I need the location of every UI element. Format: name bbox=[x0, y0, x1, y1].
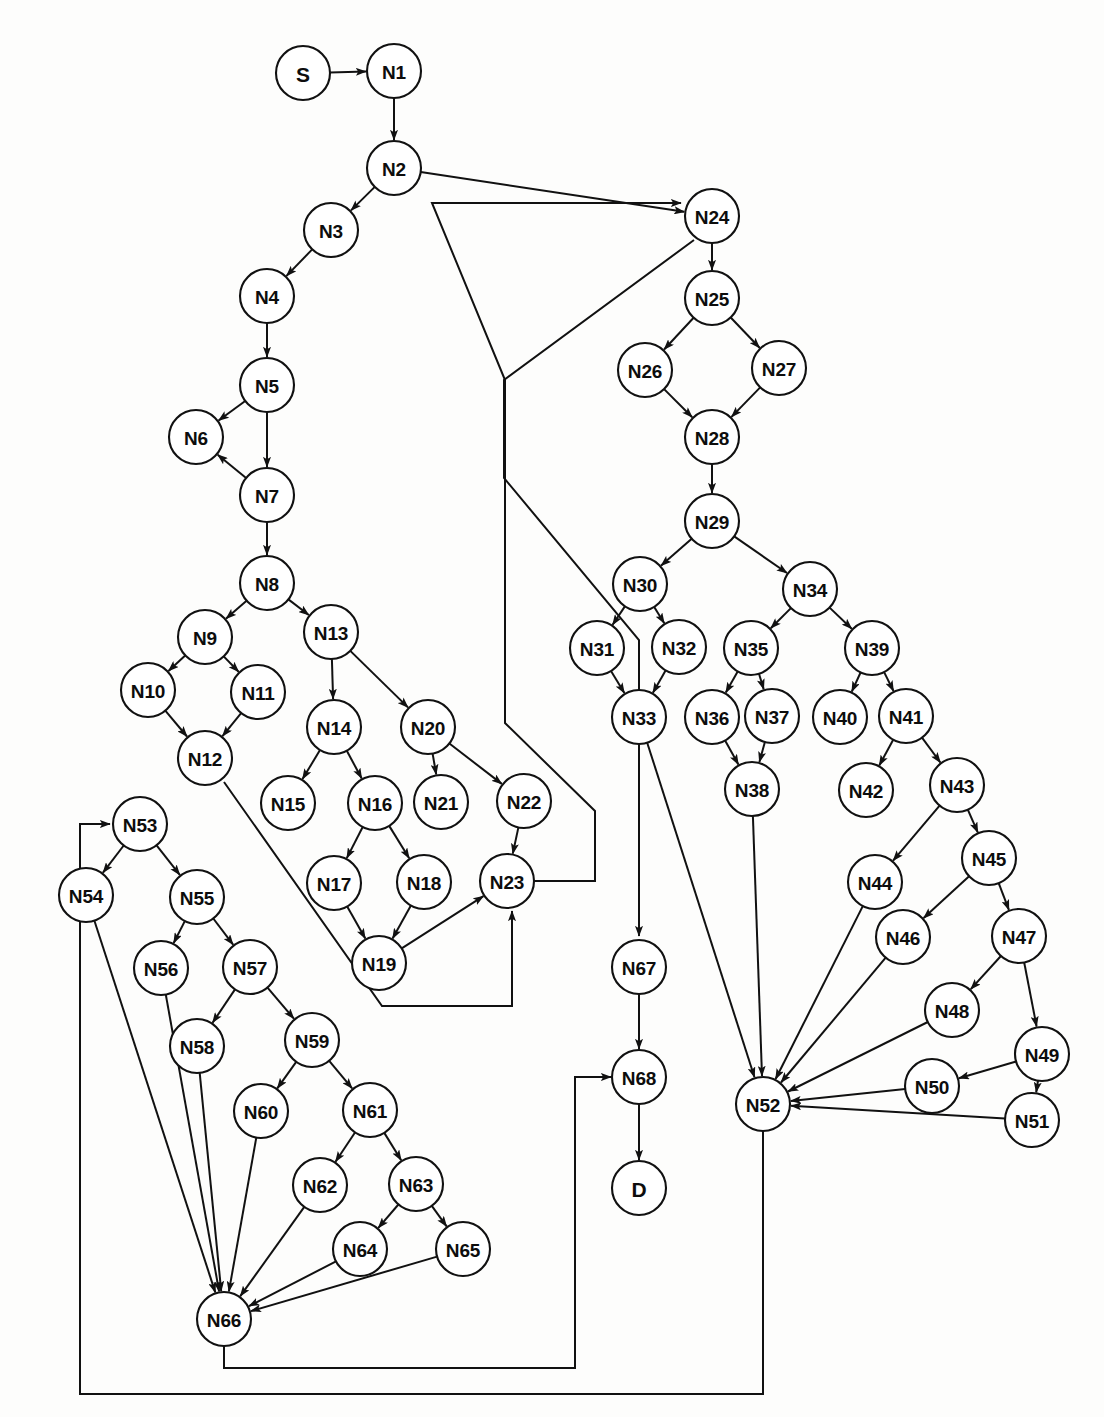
node-n57[interactable]: N57 bbox=[223, 940, 277, 994]
node-d[interactable]: D bbox=[612, 1161, 666, 1215]
node-circle-n61[interactable] bbox=[343, 1083, 397, 1137]
node-n67[interactable]: N67 bbox=[612, 940, 666, 994]
node-n16[interactable]: N16 bbox=[348, 776, 402, 830]
node-n55[interactable]: N55 bbox=[170, 870, 224, 924]
node-circle-n21[interactable] bbox=[414, 775, 468, 829]
node-circle-n17[interactable] bbox=[307, 856, 361, 910]
node-circle-n56[interactable] bbox=[134, 941, 188, 995]
node-n3[interactable]: N3 bbox=[304, 203, 358, 257]
node-n41[interactable]: N41 bbox=[879, 689, 933, 743]
node-circle-n20[interactable] bbox=[401, 700, 455, 754]
node-circle-n33[interactable] bbox=[612, 690, 666, 744]
node-circle-n2[interactable] bbox=[367, 141, 421, 195]
node-circle-n19[interactable] bbox=[352, 936, 406, 990]
node-circle-n42[interactable] bbox=[839, 763, 893, 817]
node-circle-n47[interactable] bbox=[992, 909, 1046, 963]
node-circle-n57[interactable] bbox=[223, 940, 277, 994]
node-n40[interactable]: N40 bbox=[813, 690, 867, 744]
node-circle-n8[interactable] bbox=[240, 556, 294, 610]
node-circle-n30[interactable] bbox=[613, 557, 667, 611]
node-circle-n10[interactable] bbox=[121, 663, 175, 717]
node-n63[interactable]: N63 bbox=[389, 1157, 443, 1211]
node-n47[interactable]: N47 bbox=[992, 909, 1046, 963]
node-circle-n26[interactable] bbox=[618, 343, 672, 397]
node-circle-n62[interactable] bbox=[293, 1158, 347, 1212]
node-circle-n12[interactable] bbox=[178, 731, 232, 785]
node-circle-n5[interactable] bbox=[240, 358, 294, 412]
node-n17[interactable]: N17 bbox=[307, 856, 361, 910]
node-circle-n45[interactable] bbox=[962, 831, 1016, 885]
node-circle-n28[interactable] bbox=[685, 410, 739, 464]
node-n20[interactable]: N20 bbox=[401, 700, 455, 754]
node-circle-n55[interactable] bbox=[170, 870, 224, 924]
node-n44[interactable]: N44 bbox=[848, 855, 902, 909]
node-n58[interactable]: N58 bbox=[170, 1019, 224, 1073]
node-n24[interactable]: N24 bbox=[685, 189, 739, 243]
node-n66[interactable]: N66 bbox=[197, 1292, 251, 1346]
node-n1[interactable]: N1 bbox=[367, 44, 421, 98]
node-circle-n66[interactable] bbox=[197, 1292, 251, 1346]
node-circle-n13[interactable] bbox=[304, 605, 358, 659]
node-circle-n31[interactable] bbox=[570, 621, 624, 675]
node-circle-n53[interactable] bbox=[113, 797, 167, 851]
node-n6[interactable]: N6 bbox=[169, 410, 223, 464]
node-circle-n9[interactable] bbox=[178, 610, 232, 664]
node-n42[interactable]: N42 bbox=[839, 763, 893, 817]
node-circle-n50[interactable] bbox=[905, 1059, 959, 1113]
node-circle-n14[interactable] bbox=[307, 700, 361, 754]
node-circle-n35[interactable] bbox=[724, 621, 778, 675]
node-n31[interactable]: N31 bbox=[570, 621, 624, 675]
node-circle-n29[interactable] bbox=[685, 494, 739, 548]
node-n61[interactable]: N61 bbox=[343, 1083, 397, 1137]
node-n10[interactable]: N10 bbox=[121, 663, 175, 717]
node-circle-n65[interactable] bbox=[436, 1222, 490, 1276]
node-circle-n48[interactable] bbox=[925, 983, 979, 1037]
node-circle-n58[interactable] bbox=[170, 1019, 224, 1073]
node-n62[interactable]: N62 bbox=[293, 1158, 347, 1212]
node-circle-n36[interactable] bbox=[685, 690, 739, 744]
node-n30[interactable]: N30 bbox=[613, 557, 667, 611]
node-n38[interactable]: N38 bbox=[725, 762, 779, 816]
node-n22[interactable]: N22 bbox=[497, 774, 551, 828]
node-circle-n11[interactable] bbox=[231, 665, 285, 719]
node-n48[interactable]: N48 bbox=[925, 983, 979, 1037]
node-circle-n51[interactable] bbox=[1005, 1093, 1059, 1147]
node-circle-n1[interactable] bbox=[367, 44, 421, 98]
node-n54[interactable]: N54 bbox=[59, 868, 113, 922]
node-circle-n4[interactable] bbox=[240, 269, 294, 323]
node-n45[interactable]: N45 bbox=[962, 831, 1016, 885]
node-n25[interactable]: N25 bbox=[685, 271, 739, 325]
node-n26[interactable]: N26 bbox=[618, 343, 672, 397]
node-s[interactable]: S bbox=[276, 46, 330, 100]
node-circle-n67[interactable] bbox=[612, 940, 666, 994]
node-n37[interactable]: N37 bbox=[745, 689, 799, 743]
node-n9[interactable]: N9 bbox=[178, 610, 232, 664]
node-n32[interactable]: N32 bbox=[652, 620, 706, 674]
node-n50[interactable]: N50 bbox=[905, 1059, 959, 1113]
node-circle-d[interactable] bbox=[612, 1161, 666, 1215]
node-n46[interactable]: N46 bbox=[876, 910, 930, 964]
node-n49[interactable]: N49 bbox=[1015, 1027, 1069, 1081]
node-n65[interactable]: N65 bbox=[436, 1222, 490, 1276]
node-n8[interactable]: N8 bbox=[240, 556, 294, 610]
node-n11[interactable]: N11 bbox=[231, 665, 285, 719]
node-circle-n68[interactable] bbox=[612, 1050, 666, 1104]
node-n28[interactable]: N28 bbox=[685, 410, 739, 464]
node-n33[interactable]: N33 bbox=[612, 690, 666, 744]
node-circle-n7[interactable] bbox=[240, 468, 294, 522]
node-n36[interactable]: N36 bbox=[685, 690, 739, 744]
node-n13[interactable]: N13 bbox=[304, 605, 358, 659]
node-n60[interactable]: N60 bbox=[234, 1084, 288, 1138]
node-n7[interactable]: N7 bbox=[240, 468, 294, 522]
node-circle-n52[interactable] bbox=[736, 1077, 790, 1131]
node-n39[interactable]: N39 bbox=[845, 621, 899, 675]
node-circle-n54[interactable] bbox=[59, 868, 113, 922]
node-circle-n41[interactable] bbox=[879, 689, 933, 743]
node-circle-n38[interactable] bbox=[725, 762, 779, 816]
node-n14[interactable]: N14 bbox=[307, 700, 361, 754]
node-circle-n27[interactable] bbox=[752, 341, 806, 395]
node-n64[interactable]: N64 bbox=[333, 1222, 387, 1276]
node-n52[interactable]: N52 bbox=[736, 1077, 790, 1131]
node-n27[interactable]: N27 bbox=[752, 341, 806, 395]
node-n21[interactable]: N21 bbox=[414, 775, 468, 829]
